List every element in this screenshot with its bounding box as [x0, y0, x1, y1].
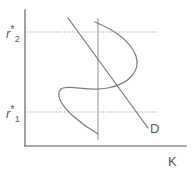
y-tick-label-r2-sub: 2 [15, 34, 20, 44]
diagram-canvas [0, 0, 195, 173]
economics-diagram: r*2 r*1 D K [0, 0, 195, 173]
x-axis-label: K [168, 155, 177, 168]
demand-curve-label: D [150, 122, 159, 135]
y-tick-label-r1-sub: 1 [15, 114, 20, 124]
y-tick-label-r1: r*1 [6, 104, 20, 124]
y-tick-label-r2: r*2 [6, 24, 20, 44]
